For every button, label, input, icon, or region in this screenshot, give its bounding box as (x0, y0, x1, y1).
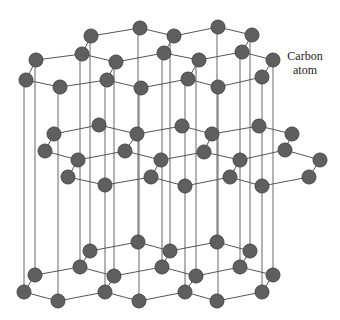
label-line-1: Carbon (281, 49, 329, 63)
carbon-atom (211, 20, 225, 34)
carbon-atom (133, 21, 147, 35)
carbon-atom (163, 244, 177, 258)
carbon-atom (235, 45, 249, 59)
carbon-atom (178, 179, 192, 193)
graphite-structure-diagram (0, 0, 340, 320)
carbon-atom-label: Carbon atom (281, 49, 329, 77)
carbon-atom (189, 269, 203, 283)
carbon-atom (223, 170, 237, 184)
label-line-2: atom (281, 63, 329, 77)
carbon-atom (167, 29, 181, 43)
carbon-atom (197, 145, 211, 159)
carbon-atom (175, 119, 189, 133)
carbon-atom (155, 260, 169, 274)
carbon-atom (107, 269, 121, 283)
carbon-atom (266, 268, 280, 282)
carbon-atom (243, 244, 257, 258)
carbon-atom (29, 53, 43, 67)
carbon-atom (285, 127, 299, 141)
carbon-atom (211, 80, 225, 94)
carbon-atom (134, 81, 148, 95)
carbon-atom (181, 72, 195, 86)
carbon-atom (233, 260, 247, 274)
carbon-atom (109, 55, 123, 69)
carbon-atom (100, 73, 114, 87)
carbon-atom (233, 153, 247, 167)
carbon-atom (157, 46, 171, 60)
carbon-atom (205, 127, 219, 141)
carbon-atom (178, 285, 192, 299)
carbon-atom (17, 285, 31, 299)
carbon-atom (47, 127, 61, 141)
carbon-atom (98, 178, 112, 192)
covalent-bonds (24, 27, 320, 301)
carbon-atom (313, 153, 327, 167)
carbon-atom (28, 268, 42, 282)
carbon-atom (154, 153, 168, 167)
carbon-atom (192, 53, 206, 67)
carbon-atom (51, 294, 65, 308)
carbon-atom (245, 28, 259, 42)
carbon-atom (84, 29, 98, 43)
carbon-atom (75, 47, 89, 61)
carbon-atom (255, 70, 269, 84)
carbon-atom (71, 153, 85, 167)
carbon-atom (210, 235, 224, 249)
carbon-atom (131, 235, 145, 249)
carbon-atom (132, 294, 146, 308)
carbon-atom (266, 53, 280, 67)
carbon-atom (252, 119, 266, 133)
carbon-atom (73, 260, 87, 274)
carbon-atom (210, 294, 224, 308)
carbon-atom (118, 144, 132, 158)
carbon-atom (61, 170, 75, 184)
carbon-atom (130, 127, 144, 141)
carbon-atom (98, 285, 112, 299)
carbon-atom (53, 80, 67, 94)
carbon-atom (255, 179, 269, 193)
carbon-atom (38, 144, 52, 158)
carbon-atom (144, 170, 158, 184)
carbon-atom (83, 244, 97, 258)
carbon-atom (19, 73, 33, 87)
carbon-atom (278, 143, 292, 157)
carbon-atom (92, 118, 106, 132)
carbon-atom (302, 170, 316, 184)
carbon-atom (255, 285, 269, 299)
